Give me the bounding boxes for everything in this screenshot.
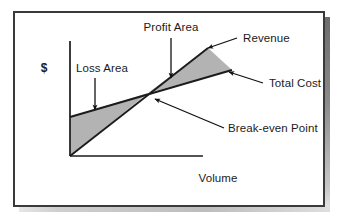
x-axis-label: Volume xyxy=(199,172,238,184)
break-even-point-label: Break-even Point xyxy=(228,122,319,134)
revenue-leader xyxy=(208,38,237,48)
break-even-leader xyxy=(155,99,224,128)
total-cost-line xyxy=(70,70,232,117)
breakeven-chart: $ Loss Area Profit Area Revenue Total Co… xyxy=(0,0,347,220)
profit-area-label: Profit Area xyxy=(144,21,199,33)
breakeven-figure: $ Loss Area Profit Area Revenue Total Co… xyxy=(0,0,347,220)
loss-area-label: Loss Area xyxy=(76,62,129,74)
total-cost-label: Total Cost xyxy=(269,77,322,89)
revenue-label: Revenue xyxy=(243,32,290,44)
total-cost-leader xyxy=(229,72,263,83)
y-axis-label: $ xyxy=(41,61,48,75)
